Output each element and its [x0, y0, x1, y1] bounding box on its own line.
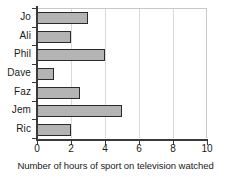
- bar-row: [37, 9, 207, 28]
- y-axis-tick: [32, 119, 36, 120]
- bar-chart: Jo Ali Phil Dave Faz Jem Ric 0246810 Num…: [0, 0, 231, 177]
- y-axis-label-faz: Faz: [0, 82, 34, 101]
- bar-ali: [37, 31, 71, 43]
- y-axis-tick: [32, 82, 36, 83]
- x-axis-tick-label-6: 6: [136, 144, 142, 154]
- x-axis-tick-label-4: 4: [102, 144, 108, 154]
- y-axis-tick: [32, 101, 36, 102]
- bar-dave: [37, 68, 54, 80]
- x-axis-tick-labels: 0246810: [37, 144, 207, 156]
- y-axis-label-ric: Ric: [0, 119, 34, 138]
- x-axis-line: [36, 139, 208, 141]
- y-axis-tick: [32, 8, 36, 9]
- bar-row: [37, 46, 207, 65]
- y-axis-category-labels: Jo Ali Phil Dave Faz Jem Ric: [0, 8, 34, 138]
- y-axis-label-jo: Jo: [0, 8, 34, 27]
- x-axis-tick-label-8: 8: [170, 144, 176, 154]
- x-axis-tick-label-2: 2: [68, 144, 74, 154]
- plot-area: [37, 8, 207, 138]
- bar-phil: [37, 49, 105, 61]
- x-axis-title: Number of hours of sport on television w…: [0, 160, 231, 171]
- bar-row: [37, 28, 207, 47]
- bar-jem: [37, 105, 122, 117]
- bar-jo: [37, 12, 88, 24]
- y-axis-line: [36, 6, 38, 140]
- y-axis-label-ali: Ali: [0, 27, 34, 46]
- bar-series: [37, 9, 206, 138]
- bar-row: [37, 65, 207, 84]
- bar-row: [37, 120, 207, 139]
- bar-faz: [37, 87, 80, 99]
- y-axis-label-jem: Jem: [0, 101, 34, 120]
- y-axis-label-dave: Dave: [0, 64, 34, 83]
- bar-row: [37, 83, 207, 102]
- y-axis-tick: [32, 45, 36, 46]
- y-axis-label-phil: Phil: [0, 45, 34, 64]
- y-axis-tick: [32, 64, 36, 65]
- y-axis-tick: [32, 27, 36, 28]
- bar-row: [37, 102, 207, 121]
- x-axis-tick-label-0: 0: [34, 144, 40, 154]
- x-axis-tick-label-10: 10: [201, 144, 212, 154]
- bar-ric: [37, 124, 71, 136]
